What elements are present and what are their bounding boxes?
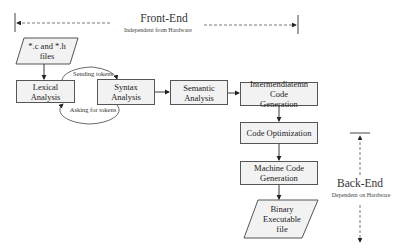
machine-line1: Machine Code xyxy=(254,163,304,173)
lexical-analysis-node: Lexical Analysis xyxy=(16,80,75,103)
source-files-line1: *.c and *.h xyxy=(18,41,76,51)
binary-executable-node: Binary Executable file xyxy=(252,204,312,234)
intermediate-code-node: Intermendiatemn Code Generation xyxy=(240,82,318,106)
machine-line2: Generation xyxy=(260,173,298,183)
intermediate-line2: Generation xyxy=(260,99,298,109)
semantic-analysis-node: Semantic Analysis xyxy=(170,80,228,105)
binary-line1: Binary xyxy=(252,204,312,214)
syntax-line1: Syntax xyxy=(114,82,138,92)
syntax-line2: Analysis xyxy=(111,92,141,102)
binary-line2: Executable xyxy=(252,214,312,224)
semantic-line2: Analysis xyxy=(184,93,214,103)
optimization-line1: Code Optimization xyxy=(247,128,312,138)
semantic-line1: Semantic xyxy=(183,83,215,93)
front-end-subtitle: Independent from Hardware xyxy=(110,27,206,33)
intermediate-line1: Intermendiatemn Code xyxy=(241,79,317,99)
sending-tokens-label: Sending tokens xyxy=(70,70,116,77)
back-end-subtitle: Dependent on Hardware xyxy=(324,192,398,198)
diagram-canvas xyxy=(0,0,403,251)
front-end-title: Front-End xyxy=(124,12,204,24)
lexical-line1: Lexical xyxy=(33,82,58,92)
machine-code-node: Machine Code Generation xyxy=(240,161,318,185)
source-files-node: *.c and *.h files xyxy=(18,41,76,61)
source-files-line2: files xyxy=(18,51,76,61)
back-end-title: Back-End xyxy=(330,177,390,189)
lexical-line2: Analysis xyxy=(31,92,61,102)
binary-line3: file xyxy=(252,224,312,234)
code-optimization-node: Code Optimization xyxy=(240,122,318,144)
asking-tokens-label: Asking for tokens xyxy=(67,106,119,113)
syntax-analysis-node: Syntax Analysis xyxy=(97,79,155,105)
